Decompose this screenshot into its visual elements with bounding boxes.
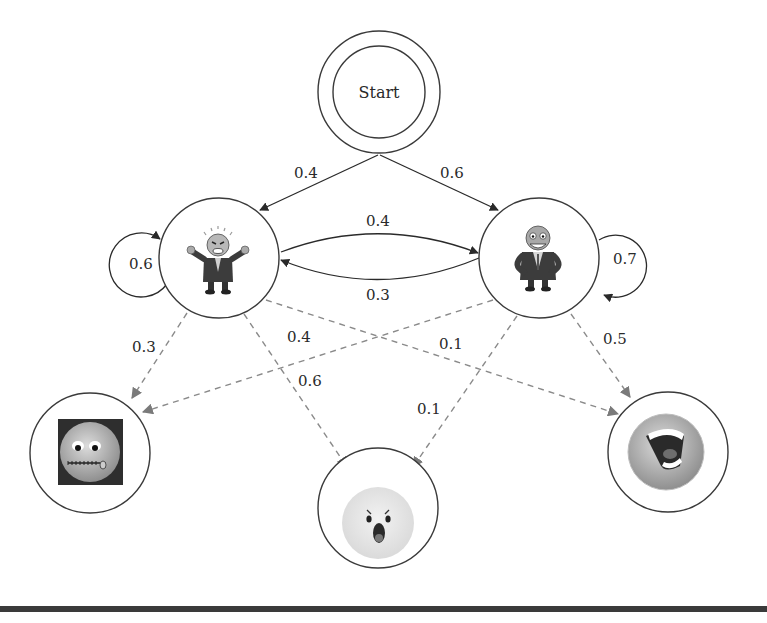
happy-to-silent-edge: 0.4 xyxy=(143,300,493,412)
start-to-angry-edge: 0.4 xyxy=(260,155,378,210)
self-loop-label: 0.7 xyxy=(613,250,637,268)
observation-laughing xyxy=(608,392,728,512)
edge-label: 0.5 xyxy=(603,330,627,348)
start-node: Start xyxy=(318,31,440,153)
happy-to-shocked-edge: 0.1 xyxy=(413,316,517,467)
happy-to-laughing-edge: 0.5 xyxy=(571,314,630,397)
edge-label: 0.6 xyxy=(440,164,464,182)
observation-silent xyxy=(30,393,150,513)
start-label: Start xyxy=(358,83,400,102)
edge-label: 0.1 xyxy=(417,400,441,418)
hidden-state-angry-boss xyxy=(159,198,279,318)
angry-self-loop: 0.6 xyxy=(109,233,167,297)
start-to-happy-edge: 0.6 xyxy=(380,155,498,210)
edge-label: 0.3 xyxy=(132,338,156,356)
self-loop-label: 0.6 xyxy=(129,255,153,273)
observation-shocked xyxy=(318,448,438,568)
angry-to-silent-edge: 0.3 xyxy=(132,313,187,398)
happy-self-loop: 0.7 xyxy=(599,235,647,297)
angry-to-happy-edge: 0.4 xyxy=(281,212,478,253)
edge-label: 0.4 xyxy=(294,164,318,182)
happy-to-angry-edge: 0.3 xyxy=(281,258,479,304)
zipped-mouth-face-icon xyxy=(58,419,123,485)
laughing-face-icon xyxy=(628,414,704,490)
bottom-divider-bar xyxy=(0,606,767,612)
edge-label: 0.3 xyxy=(366,286,390,304)
edge-label: 0.6 xyxy=(298,372,322,390)
shocked-face-icon xyxy=(342,487,414,559)
edge-label: 0.4 xyxy=(287,328,311,346)
hmm-diagram: Start 0.4 0.6 0.4 0.3 0.6 0.7 0.3 0.6 0.… xyxy=(0,0,767,623)
angry-to-laughing-edge: 0.1 xyxy=(266,300,618,414)
edge-label: 0.1 xyxy=(439,335,463,353)
hidden-state-happy-boss xyxy=(479,198,599,318)
edge-label: 0.4 xyxy=(366,212,390,230)
